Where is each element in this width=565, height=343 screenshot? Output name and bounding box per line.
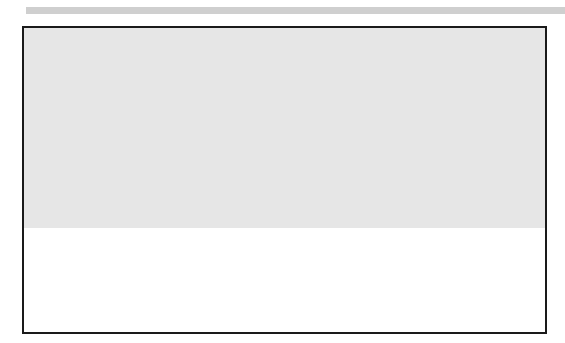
upper-fabric [24, 28, 545, 228]
frame [23, 27, 546, 333]
fabric-panels-diagram [0, 0, 565, 343]
